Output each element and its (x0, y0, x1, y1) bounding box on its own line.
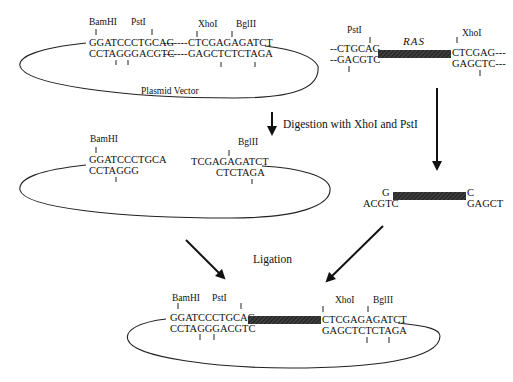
svg-text:--GACGTC: --GACGTC (330, 54, 380, 65)
plasmid-vector-caption: Plasmid Vector (141, 86, 199, 96)
svg-text:-------: ------- (163, 37, 188, 48)
ras-insert-bar (378, 50, 451, 58)
svg-text:CCTAGGGACGTC: CCTAGGGACGTC (170, 323, 256, 334)
ras-gene-fragment: PstI XhoI RAS --CTGCAG --GACGTC CTCGAG--… (330, 25, 506, 76)
top-strand-right: CTCGAGAGATCT (188, 37, 273, 48)
svg-text:--CTGCAG: --CTGCAG (330, 43, 381, 54)
step-ligation-label: Ligation (253, 253, 292, 266)
svg-text:GAGCTC---: GAGCTC--- (452, 58, 506, 69)
recombinant-insert-bar (248, 316, 321, 324)
site-bamhi: BamHI (89, 17, 117, 27)
digested-insert: G ACGTC C GAGCT (363, 187, 504, 209)
cloning-diagram: BamHI PstI XhoI BglII GGATCCCTGCAG CCTAG… (0, 0, 513, 382)
site-bglii: BglII (236, 19, 256, 29)
svg-text:CTCGAG---: CTCGAG--- (452, 47, 506, 58)
ras-site-psti: PstI (347, 25, 362, 35)
svg-text:GAGCT: GAGCT (467, 198, 504, 209)
top-strand-left: GGATCCCTGCAG (89, 37, 175, 48)
rec-site-psti: PstI (212, 293, 227, 303)
svg-text:C: C (467, 187, 474, 198)
bottom-strand-left: CCTAGGGACGTC (89, 48, 175, 59)
svg-text:GGATCCCTGCAG: GGATCCCTGCAG (170, 312, 256, 323)
digested-plasmid: BamHI BglII GGATCCCTGCA CCTAGGG TCGAGAGA… (20, 134, 330, 218)
svg-text:CCTAGGG: CCTAGGG (89, 165, 139, 176)
dig-site-bamhi: BamHI (90, 134, 118, 144)
svg-text:GGATCCCTGCA: GGATCCCTGCA (89, 154, 167, 165)
svg-text:G: G (382, 187, 390, 198)
rec-site-bamhi: BamHI (172, 293, 200, 303)
arrow-ligation-right (329, 226, 383, 279)
recombinant-plasmid: BamHI PstI XhoI BglII GGATCCCTGCAG CCTAG… (127, 293, 440, 368)
ras-site-xhoi: XhoI (462, 28, 482, 38)
ras-label: RAS (402, 35, 425, 47)
site-psti: PstI (131, 17, 146, 27)
site-xhoi: XhoI (198, 19, 218, 29)
insert-bar (393, 192, 466, 200)
rec-site-xhoi: XhoI (335, 295, 355, 305)
svg-text:-------: ------- (163, 48, 188, 59)
svg-text:CTCTAGA: CTCTAGA (216, 167, 265, 178)
svg-text:CTCGAGAGATCT: CTCGAGAGATCT (322, 314, 407, 325)
top-plasmid-vector: BamHI PstI XhoI BglII GGATCCCTGCAG CCTAG… (20, 17, 318, 98)
bottom-strand-right: GAGCTCTCTAGA (188, 48, 273, 59)
rec-site-bglii: BglII (373, 295, 393, 305)
dig-site-bglii: BglII (238, 137, 258, 147)
arrow-ligation-left (186, 240, 222, 276)
svg-text:GAGCTCTCTAGA: GAGCTCTCTAGA (322, 325, 407, 336)
step-digestion-label: Digestion with XhoI and PstI (283, 118, 418, 131)
svg-text:TCGAGAGATCT: TCGAGAGATCT (191, 156, 269, 167)
